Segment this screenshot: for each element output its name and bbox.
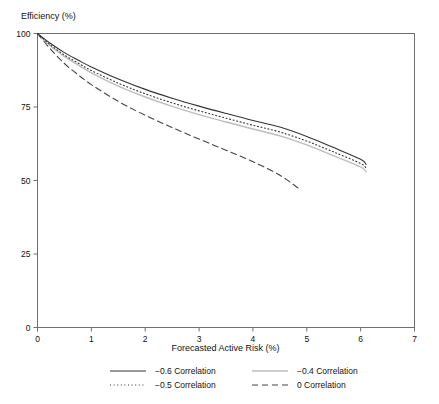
efficiency-vs-forecasted-active-risk-chart: Efficiency (%) 0255075100 01234567 Forec… xyxy=(0,0,439,404)
x-tick-label: 6 xyxy=(358,334,363,344)
y-axis-title: Efficiency (%) xyxy=(21,11,76,21)
legend-label: −0.5 Correlation xyxy=(155,380,216,390)
x-axis-title: Forecasted Active Risk (%) xyxy=(171,343,279,353)
y-tick-label: 75 xyxy=(21,102,31,112)
y-tick-label: 100 xyxy=(16,29,30,39)
x-tick-label: 5 xyxy=(304,334,309,344)
legend-label: 0 Correlation xyxy=(297,380,346,390)
x-tick-label: 0 xyxy=(35,334,40,344)
y-tick-label: 0 xyxy=(26,323,31,333)
legend-label: −0.4 Correlation xyxy=(297,366,358,376)
x-tick-label: 1 xyxy=(89,334,94,344)
legend-label: −0.6 Correlation xyxy=(155,366,216,376)
x-tick-label: 2 xyxy=(143,334,148,344)
y-tick-label: 50 xyxy=(21,176,31,186)
x-tick-label: 7 xyxy=(412,334,417,344)
y-tick-label: 25 xyxy=(21,249,31,259)
